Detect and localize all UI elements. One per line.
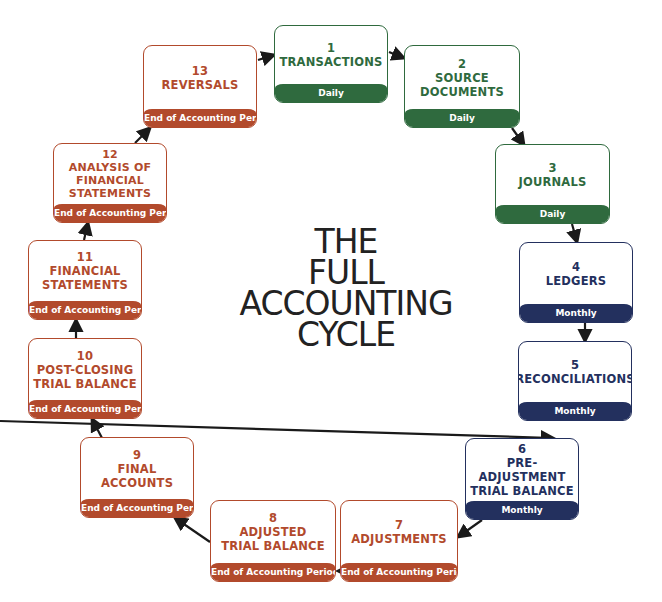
step-number: 10 — [77, 349, 93, 363]
step-title: LEDGERS — [546, 274, 607, 288]
step-title: REVERSALS — [162, 78, 239, 92]
step-number: 5 — [571, 358, 579, 372]
step-8-adjusted-trial-balance: 8ADJUSTED TRIAL BALANCE End of Accountin… — [210, 500, 336, 582]
step-frequency: Monthly — [520, 304, 632, 322]
step-title: PRE-ADJUSTMENT TRIAL BALANCE — [469, 456, 575, 498]
step-10-post-closing-trial-balance: 10POST-CLOSING TRIAL BALANCE End of Acco… — [28, 338, 142, 419]
step-frequency: End of Accounting Period — [144, 109, 256, 127]
title-line: CYCLE — [228, 319, 464, 350]
arrow-6-7 — [458, 520, 482, 537]
arrow-2-3 — [512, 128, 524, 145]
step-6-pre-adjustment-trial-balance: 6PRE-ADJUSTMENT TRIAL BALANCE Monthly — [465, 438, 579, 520]
step-3-journals: 3JOURNALS Daily — [495, 144, 610, 224]
step-number: 3 — [548, 161, 556, 175]
step-4-ledgers: 4LEDGERS Monthly — [519, 242, 633, 323]
step-frequency: End of Accounting Period — [211, 563, 335, 581]
step-number: 11 — [77, 250, 93, 264]
step-2-source-documents: 2SOURCE DOCUMENTS Daily — [404, 45, 520, 128]
step-number: 1 — [327, 41, 335, 55]
step-title: RECONCILIATIONS — [518, 372, 632, 386]
arrow-9-10 — [92, 419, 102, 438]
step-title: POST-CLOSING TRIAL BALANCE — [33, 363, 137, 391]
arrow-3-4 — [572, 224, 577, 242]
arrow-8-9 — [175, 518, 210, 542]
step-title: FINANCIAL STATEMENTS — [42, 264, 128, 292]
step-1-transactions: 1TRANSACTIONS Daily — [274, 25, 388, 103]
step-5-reconciliations: 5RECONCILIATIONS Monthly — [518, 341, 632, 421]
step-frequency: Daily — [405, 109, 519, 127]
arrow-13-1 — [258, 55, 274, 60]
step-title: TRANSACTIONS — [279, 55, 382, 69]
step-title: JOURNALS — [519, 175, 587, 189]
step-9-final-accounts: 9FINAL ACCOUNTS End of Accounting Period — [80, 437, 194, 518]
step-title: ADJUSTED TRIAL BALANCE — [221, 525, 325, 553]
step-title: ANALYSIS OF FINANCIAL STATEMENTS — [69, 161, 151, 200]
arrow-5-6 — [0, 421, 553, 438]
step-frequency: Monthly — [519, 402, 631, 420]
step-title: SOURCE DOCUMENTS — [420, 71, 504, 99]
step-number: 6 — [518, 442, 526, 456]
step-frequency: End of Accounting Period — [341, 563, 457, 581]
step-frequency: Daily — [275, 84, 387, 102]
step-number: 7 — [395, 518, 403, 532]
step-11-financial-statements: 11FINANCIAL STATEMENTS End of Accounting… — [28, 240, 142, 320]
step-number: 12 — [102, 148, 118, 161]
step-title: FINAL ACCOUNTS — [101, 462, 173, 490]
step-7-adjustments: 7ADJUSTMENTS End of Accounting Period — [340, 500, 458, 582]
step-title: ADJUSTMENTS — [351, 532, 446, 546]
step-frequency: Daily — [496, 205, 609, 223]
step-frequency: End of Accounting Period — [29, 301, 141, 319]
step-number: 2 — [458, 57, 466, 71]
step-frequency: End of Accounting Period — [54, 204, 166, 222]
step-frequency: End of Accounting Period — [81, 499, 193, 517]
step-number: 9 — [133, 448, 141, 462]
step-number: 4 — [572, 260, 580, 274]
arrow-12-13 — [135, 128, 150, 143]
arrow-1-2 — [389, 52, 404, 58]
step-number: 13 — [192, 64, 208, 78]
arrow-11-12 — [84, 223, 88, 240]
step-frequency: Monthly — [466, 501, 578, 519]
step-13-reversals: 13REVERSALS End of Accounting Period — [143, 45, 257, 128]
step-12-analysis-of-financial-statements: 12ANALYSIS OF FINANCIAL STATEMENTS End o… — [53, 143, 167, 223]
step-frequency: End of Accounting Period — [29, 400, 141, 418]
step-number: 8 — [269, 511, 277, 525]
diagram-title: THE FULL ACCOUNTING CYCLE — [228, 226, 464, 350]
